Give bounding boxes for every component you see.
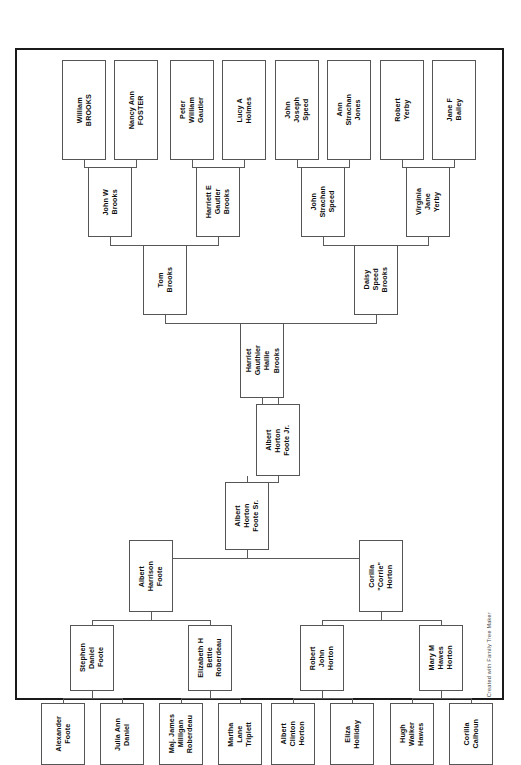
person-name: Albert Harrison Foote <box>137 561 165 591</box>
connector-line <box>151 558 381 559</box>
person-name: Lucy A Holmes <box>235 97 253 124</box>
person-name: Robert John Horton <box>308 646 336 670</box>
connector-line <box>181 698 240 699</box>
person-name: Martha Lane Triplett <box>226 722 254 747</box>
person-node[interactable]: Stephen Daniel Foote <box>70 625 114 691</box>
person-name: Eliza Holliday <box>343 720 361 749</box>
connector-line <box>192 160 193 167</box>
connector-line <box>210 691 211 698</box>
person-node[interactable]: Robert Yerby <box>380 60 424 160</box>
person-node[interactable]: Martha Lane Triplett <box>218 703 262 765</box>
person-node[interactable]: Harriett E Gautier Brooks <box>196 167 240 237</box>
person-name: Stephen Daniel Foote <box>78 643 106 672</box>
person-name: Ann Strachan Jones <box>335 94 363 126</box>
person-node[interactable]: Virginia Jane Yerby <box>406 167 450 237</box>
connector-line <box>441 691 442 698</box>
connector-line <box>63 698 122 699</box>
person-node-root[interactable]: Albert Horton Foote Sr. <box>225 482 269 550</box>
person-name: Alexander Foote <box>54 716 72 752</box>
person-node[interactable]: John W Brooks <box>88 167 132 237</box>
person-name: Maj. James Milligan Roberdeau <box>167 714 195 753</box>
person-node[interactable]: Corilla Calhoun <box>449 703 493 765</box>
person-node[interactable]: Mary M Hawes Horton <box>419 625 463 691</box>
person-node[interactable]: Lucy A Holmes <box>222 60 266 160</box>
person-name: John W Brooks <box>101 189 119 216</box>
connector-line <box>323 237 324 245</box>
person-name: Harriet Gauthier Hallie Brooks <box>244 345 281 375</box>
connector-line <box>297 160 298 167</box>
connector-line <box>454 160 455 167</box>
person-name: William BROOKS <box>75 94 93 126</box>
person-node[interactable]: Maj. James Milligan Roberdeau <box>159 703 203 765</box>
person-node[interactable]: John Joseph Speed <box>275 60 319 160</box>
person-name: Corilla "Corrie" Horton <box>367 562 395 591</box>
person-node[interactable]: Eliza Holliday <box>330 703 374 765</box>
person-name: Albert Horton Foote Sr. <box>233 500 261 532</box>
connector-line <box>412 698 471 699</box>
person-name: Harriett E Gautier Brooks <box>204 185 232 218</box>
person-node[interactable]: Ann Strachan Jones <box>327 60 371 160</box>
person-node[interactable]: Robert John Horton <box>300 625 344 691</box>
person-node[interactable]: Albert Harrison Foote <box>129 540 173 612</box>
person-name: Julia Ann Daniel <box>113 718 131 751</box>
person-name: Nancy Ann FOSTER <box>127 91 145 129</box>
person-node[interactable]: Julia Ann Daniel <box>100 703 144 765</box>
connector-line <box>293 698 352 699</box>
connector-line <box>381 612 382 620</box>
person-name: Mary M Hawes Horton <box>427 645 455 670</box>
person-node[interactable]: Jane F Bailey <box>432 60 476 160</box>
person-name: Jane F Bailey <box>445 98 463 121</box>
person-node[interactable]: Albert Horton Foote Jr. <box>256 404 300 476</box>
person-node[interactable]: Harriet Gauthier Hallie Brooks <box>240 323 284 398</box>
connector-line <box>92 691 93 698</box>
connector-line <box>218 237 219 245</box>
person-node[interactable]: Nancy Ann FOSTER <box>114 60 158 160</box>
connector-line <box>244 160 245 167</box>
app-credit: Created with Family Tree Maker <box>486 612 492 697</box>
person-name: Daisy Speed Brooks <box>362 267 390 292</box>
connector-line <box>376 315 377 323</box>
person-node[interactable]: Elizabeth H Bettie Roberdeau <box>188 625 232 691</box>
connector-line <box>84 160 85 167</box>
connector-line <box>322 620 441 621</box>
person-name: Peter William Gautier <box>178 97 206 123</box>
connector-line <box>402 160 403 167</box>
connector-line <box>165 315 166 323</box>
person-node[interactable]: Corilla "Corrie" Horton <box>359 540 403 612</box>
person-name: Tom Brooks <box>156 267 174 292</box>
person-name: John Joseph Speed <box>283 97 311 123</box>
person-name: Hugh Walker Hawes <box>398 722 426 746</box>
person-name: Robert Yerby <box>393 98 411 122</box>
person-node[interactable]: Albert Clinton Horton <box>271 703 315 765</box>
person-node[interactable]: John Strachan Speed <box>301 167 345 237</box>
person-node[interactable]: Alexander Foote <box>41 703 85 765</box>
person-node[interactable]: Hugh Walker Hawes <box>390 703 434 765</box>
person-node[interactable]: Daisy Speed Brooks <box>354 245 398 315</box>
connector-line <box>136 160 137 167</box>
person-name: Virginia Jane Yerby <box>414 188 442 215</box>
person-node[interactable]: William BROOKS <box>62 60 106 160</box>
person-name: Corilla Calhoun <box>462 719 480 748</box>
person-name: Albert Clinton Horton <box>279 721 307 746</box>
connector-line <box>151 612 152 620</box>
connector-line <box>322 691 323 698</box>
person-name: Elizabeth H Bettie Roberdeau <box>196 638 224 678</box>
connector-line <box>349 160 350 167</box>
person-name: Albert Horton Foote Jr. <box>264 425 292 456</box>
person-node[interactable]: Peter William Gautier <box>170 60 214 160</box>
connector-line <box>428 237 429 245</box>
connector-line <box>92 620 211 621</box>
person-node[interactable]: Tom Brooks <box>143 245 187 315</box>
connector-line <box>110 237 111 245</box>
page-frame: William BROOKS Nancy Ann FOSTER Peter Wi… <box>15 48 504 700</box>
connector-line <box>247 550 248 558</box>
person-name: John Strachan Speed <box>309 186 337 218</box>
